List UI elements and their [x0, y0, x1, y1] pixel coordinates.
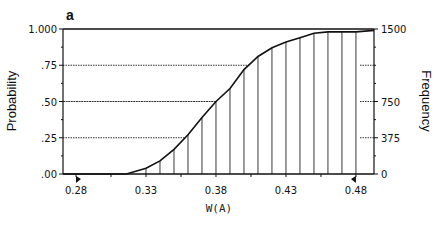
x-tick-label: 0.43 — [275, 185, 297, 196]
y-tick-label: .75 — [41, 60, 57, 71]
probability-curve — [63, 30, 374, 174]
y-tick-label: .00 — [41, 169, 57, 180]
upper-bound-marker — [351, 176, 356, 183]
y-tick-label: 1.000 — [28, 24, 57, 35]
y2-tick-label: 750 — [381, 97, 400, 108]
y2-tick-label: 1500 — [381, 24, 406, 35]
x-tick-label: 0.28 — [65, 185, 87, 196]
y2-tick-label: 375 — [381, 133, 400, 144]
y-tick-label: .25 — [41, 133, 57, 144]
x-tick-label: 0.48 — [345, 185, 367, 196]
y2-axis-title: Frequency — [419, 70, 434, 132]
y-tick-label: .50 — [41, 97, 57, 108]
cumulative-probability-chart: a Probability Frequency W(A) .00.25.50.7… — [0, 0, 438, 246]
y2-tick-label: 0 — [381, 169, 387, 180]
x-tick-label: 0.38 — [205, 185, 227, 196]
y-axis-title: Probability — [4, 70, 19, 131]
x-tick-label: 0.33 — [135, 185, 157, 196]
panel-label: a — [66, 7, 74, 23]
x-axis-title: W(A) — [206, 202, 233, 215]
lower-bound-marker — [76, 176, 81, 183]
